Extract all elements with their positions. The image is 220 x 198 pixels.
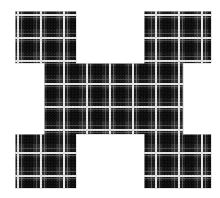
plaid-figure xyxy=(0,0,220,198)
image-canvas xyxy=(0,0,220,198)
